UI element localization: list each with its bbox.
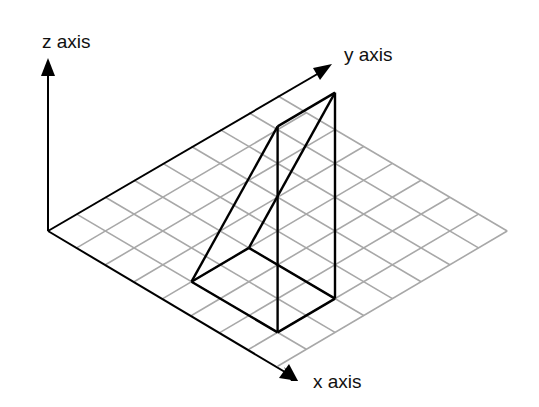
z-axis-label: z axis <box>42 32 91 51</box>
y-axis-arrowhead <box>313 64 332 80</box>
x-axis-line <box>48 231 290 375</box>
y-axis-label: y axis <box>344 45 393 64</box>
isometric-axes-diagram: z axis y axis x axis <box>0 0 539 407</box>
y-axis-line <box>48 69 326 231</box>
ground-grid <box>77 96 508 366</box>
x-axis-arrowhead-fill <box>279 364 298 381</box>
diagram-svg <box>0 0 539 407</box>
z-axis-arrowhead <box>41 58 55 76</box>
x-axis-label: x axis <box>313 372 362 391</box>
wedge-shape <box>192 93 336 333</box>
